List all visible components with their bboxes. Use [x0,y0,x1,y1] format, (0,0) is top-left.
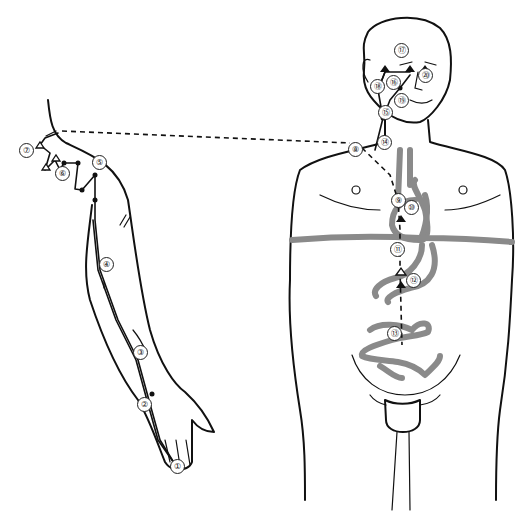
point-label-2: ② [137,397,152,412]
point-label-3: ③ [133,345,148,360]
arm-figure [36,100,214,469]
point-label-17: ⑰ [394,43,409,58]
point-label-5: ⑤ [92,155,107,170]
diaphragm [292,237,512,242]
point-label-20: ⑳ [418,68,433,83]
point-label-19: ⑲ [394,93,409,108]
acupoint-dot [150,392,155,397]
meridian-diagram: ① ② ③ ④ ⑤ ⑥ ⑦ ⑧ ⑨ ⑩ ⑪ ⑫ ⑬ ⑭ ⑮ ⑯ ⑰ ⑱ ⑲ ⑳ [0,0,519,518]
point-label-4: ④ [99,257,114,272]
torso-figure [289,18,513,510]
point-label-16: ⑯ [386,75,401,90]
point-label-6: ⑥ [55,166,70,181]
point-label-14: ⑭ [377,135,392,150]
connector-dashed-line [62,131,350,143]
point-label-11: ⑪ [390,242,405,257]
point-label-8: ⑧ [348,142,363,157]
point-label-10: ⑩ [404,200,419,215]
point-label-13: ⑬ [387,326,402,341]
point-label-7: ⑦ [19,143,34,158]
point-label-18: ⑱ [370,79,385,94]
diagram-canvas [0,0,519,518]
point-label-15: ⑮ [378,105,393,120]
point-label-12: ⑫ [406,273,421,288]
point-label-1: ① [170,459,185,474]
